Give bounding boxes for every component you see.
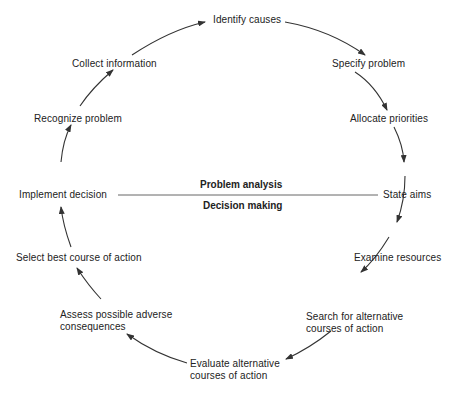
center-label-problem-analysis: Problem analysis	[200, 179, 282, 191]
decision-cycle-diagram: Identify causes Specify problem Allocate…	[0, 0, 455, 399]
step-search-alternatives: Search for alternative courses of action	[306, 311, 403, 335]
step-specify-problem: Specify problem	[332, 58, 405, 70]
step-collect-information: Collect information	[72, 58, 157, 70]
step-recognize-problem: Recognize problem	[34, 113, 122, 125]
arrow-allocate-to-state	[394, 127, 404, 162]
arrow-assess-to-select	[77, 268, 101, 299]
arrow-collect-to-identify	[132, 22, 205, 55]
arrow-evaluate-to-assess	[127, 334, 187, 363]
arrow-search-to-evaluate	[286, 331, 331, 359]
step-examine-resources: Examine resources	[354, 252, 441, 264]
arrow-select-to-implement	[61, 207, 71, 247]
arrow-implement-to-recognize	[61, 125, 71, 162]
arrow-identify-to-specify	[285, 22, 365, 55]
step-select-best-course: Select best course of action	[16, 252, 142, 264]
step-assess-line2: consequences	[60, 321, 172, 333]
arrow-recognize-to-collect	[80, 70, 113, 106]
step-evaluate-line2: courses of action	[190, 370, 280, 382]
step-assess-consequences: Assess possible adverse consequences	[60, 309, 172, 333]
step-state-aims: State aims	[383, 189, 431, 201]
step-implement-decision: Implement decision	[19, 189, 107, 201]
step-evaluate-line1: Evaluate alternative	[190, 358, 280, 370]
step-evaluate-alternatives: Evaluate alternative courses of action	[190, 358, 280, 382]
arrow-specify-to-allocate	[355, 72, 387, 110]
step-search-line1: Search for alternative	[306, 311, 403, 323]
step-search-line2: courses of action	[306, 323, 403, 335]
step-assess-line1: Assess possible adverse	[60, 309, 172, 321]
step-allocate-priorities: Allocate priorities	[350, 113, 428, 125]
step-identify-causes: Identify causes	[213, 14, 281, 26]
center-label-decision-making: Decision making	[203, 200, 282, 212]
